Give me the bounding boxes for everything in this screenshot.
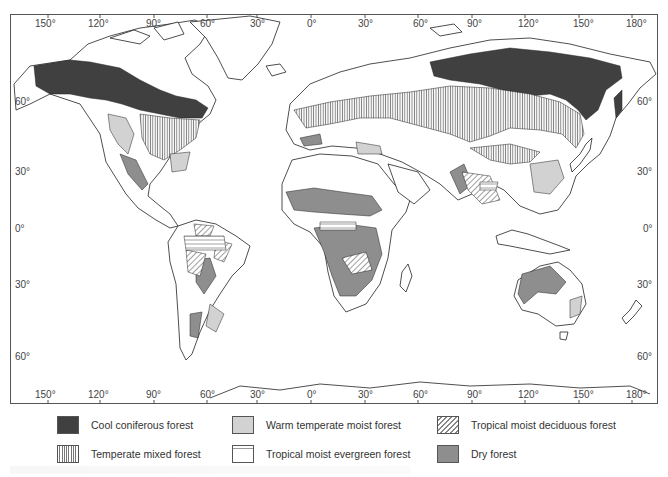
legend-item-tropical-moist-deciduous: Tropical moist deciduous forest bbox=[437, 415, 616, 435]
lon-label-bottom: 90° bbox=[467, 390, 482, 400]
dry-forest-swatch-icon bbox=[437, 445, 459, 463]
tropical-moist-deciduous-swatch-icon bbox=[437, 416, 459, 434]
lon-label-bottom: 180° bbox=[626, 390, 647, 400]
lat-label-right: 60° bbox=[637, 352, 652, 362]
legend-label: Tropical moist deciduous forest bbox=[471, 419, 616, 431]
lon-label-bottom: 60° bbox=[413, 390, 428, 400]
lon-label-top: 120° bbox=[88, 19, 109, 29]
legend-item-tropical-moist-evergreen: Tropical moist evergreen forest bbox=[232, 444, 410, 464]
tasmania-outline bbox=[560, 332, 568, 340]
lon-label-bottom: 30° bbox=[250, 390, 265, 400]
lon-label-top: 60° bbox=[413, 19, 428, 29]
lon-label-top: 90° bbox=[467, 19, 482, 29]
legend-label: Cool coniferous forest bbox=[91, 419, 193, 431]
lat-label-left: 30° bbox=[15, 280, 30, 290]
legend-label: Tropical moist evergreen forest bbox=[266, 448, 410, 460]
lat-label-left: 0° bbox=[15, 224, 25, 234]
bottom-tick-marks bbox=[48, 400, 632, 404]
legend-item-temperate-mixed: Temperate mixed forest bbox=[57, 444, 201, 464]
lon-label-top: 30° bbox=[250, 19, 265, 29]
legend-label: Dry forest bbox=[471, 448, 517, 460]
lat-label-right: 30° bbox=[637, 167, 652, 177]
lon-label-top: 60° bbox=[200, 19, 215, 29]
map-legend: Cool coniferous forest Warm temperate mo… bbox=[0, 410, 668, 470]
lon-label-bottom: 150° bbox=[35, 390, 56, 400]
tropical-moist-evergreen-swatch-icon bbox=[232, 445, 254, 463]
iceland-outline bbox=[266, 64, 286, 76]
lon-label-bottom: 120° bbox=[518, 390, 539, 400]
lon-label-bottom: 150° bbox=[573, 390, 594, 400]
legend-item-cool-coniferous: Cool coniferous forest bbox=[57, 415, 193, 435]
lon-label-bottom: 0° bbox=[307, 390, 317, 400]
lat-label-left: 30° bbox=[15, 167, 30, 177]
cool-coniferous-swatch-icon bbox=[57, 416, 79, 434]
lat-label-right: 0° bbox=[643, 224, 653, 234]
new-zealand-outline bbox=[622, 300, 642, 324]
lon-label-top: 150° bbox=[573, 19, 594, 29]
lon-label-bottom: 120° bbox=[88, 390, 109, 400]
lon-label-top: 150° bbox=[35, 19, 56, 29]
lon-label-bottom: 90° bbox=[146, 390, 161, 400]
lon-label-bottom: 60° bbox=[200, 390, 215, 400]
legend-label: Temperate mixed forest bbox=[91, 448, 201, 460]
lat-label-right: 60° bbox=[637, 97, 652, 107]
legend-item-warm-temperate-moist: Warm temperate moist forest bbox=[232, 415, 401, 435]
indonesia-outline bbox=[496, 230, 570, 254]
lat-label-left: 60° bbox=[15, 352, 30, 362]
lon-label-top: 180° bbox=[626, 19, 647, 29]
lon-label-top: 120° bbox=[518, 19, 539, 29]
legend-item-dry: Dry forest bbox=[437, 444, 517, 464]
lon-label-top: 0° bbox=[307, 19, 317, 29]
legend-label: Warm temperate moist forest bbox=[266, 419, 401, 431]
top-tick-marks bbox=[48, 14, 632, 18]
madagascar-outline bbox=[400, 264, 412, 292]
temperate-mixed-swatch-icon bbox=[57, 445, 79, 463]
lon-label-bottom: 30° bbox=[358, 390, 373, 400]
lon-label-top: 30° bbox=[358, 19, 373, 29]
world-forest-map bbox=[10, 14, 658, 404]
lat-label-right: 30° bbox=[637, 280, 652, 290]
cropped-caption bbox=[10, 466, 410, 474]
lat-label-left: 60° bbox=[15, 97, 30, 107]
lon-label-top: 90° bbox=[146, 19, 161, 29]
warm-temperate-moist-swatch-icon bbox=[232, 416, 254, 434]
